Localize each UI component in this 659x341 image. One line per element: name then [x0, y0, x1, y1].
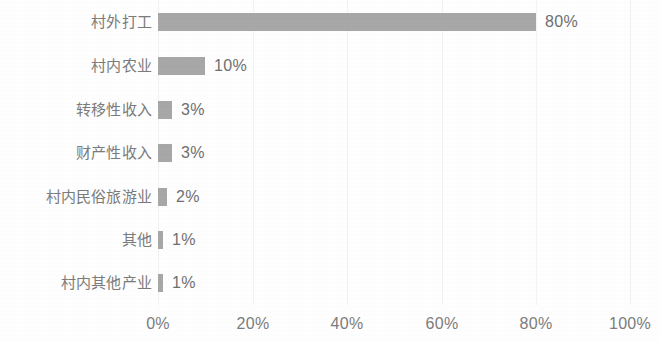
bar-group: 2% — [158, 175, 200, 218]
bar-group: 3% — [158, 131, 205, 174]
bar-value-label: 10% — [214, 57, 247, 75]
bar-group: 80% — [158, 0, 578, 43]
x-tick-label: 20% — [237, 314, 270, 334]
bar-group: 3% — [158, 88, 205, 131]
x-tick-label: 80% — [520, 314, 553, 334]
x-tick-label: 40% — [331, 314, 364, 334]
bar-group: 10% — [158, 44, 247, 87]
x-tick-label: 60% — [426, 314, 459, 334]
x-tick-label: 100% — [609, 314, 651, 334]
bar-row: 村内其他产业 1% — [0, 261, 659, 304]
bar-group: 1% — [158, 218, 196, 261]
bar-row: 村外打工 80% — [0, 0, 659, 43]
bar-group: 1% — [158, 261, 196, 304]
bar-row: 其他 1% — [0, 218, 659, 261]
category-label: 村内民俗旅游业 — [0, 188, 152, 206]
bar-row: 转移性收入 3% — [0, 88, 659, 131]
category-label: 其他 — [0, 231, 152, 249]
bar[interactable] — [158, 188, 167, 206]
bar-value-label: 2% — [176, 188, 200, 206]
bar[interactable] — [158, 231, 163, 249]
x-tick-label: 0% — [146, 314, 170, 334]
category-label: 财产性收入 — [0, 144, 152, 162]
bar[interactable] — [158, 144, 172, 162]
bar-row: 村内民俗旅游业 2% — [0, 175, 659, 218]
bar-chart: 村外打工 80% 村内农业 10% 转移性收入 3% 财产性收入 3% 村内民俗… — [0, 0, 659, 341]
bar-row: 财产性收入 3% — [0, 131, 659, 174]
bar[interactable] — [158, 274, 163, 292]
bar-value-label: 1% — [172, 274, 196, 292]
category-label: 村内其他产业 — [0, 274, 152, 292]
bar-value-label: 1% — [172, 231, 196, 249]
bar-value-label: 3% — [181, 144, 205, 162]
bar[interactable] — [158, 13, 536, 31]
category-label: 村外打工 — [0, 13, 152, 31]
category-label: 村内农业 — [0, 57, 152, 75]
bar-value-label: 3% — [181, 101, 205, 119]
bar-value-label: 80% — [545, 13, 578, 31]
bar-row: 村内农业 10% — [0, 44, 659, 87]
bar[interactable] — [158, 57, 205, 75]
category-label: 转移性收入 — [0, 101, 152, 119]
x-axis: 0% 20% 40% 60% 80% 100% — [0, 305, 659, 341]
bar[interactable] — [158, 101, 172, 119]
